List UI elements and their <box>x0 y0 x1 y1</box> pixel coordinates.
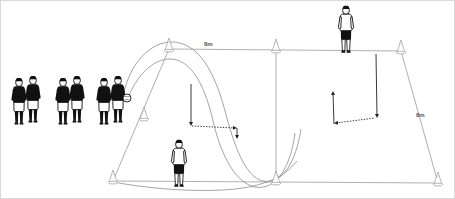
movement-arrows <box>191 54 377 137</box>
queue-player-2a <box>55 78 70 125</box>
cone-bottom-right-icon <box>433 172 442 186</box>
cone-bottom-left-icon <box>108 170 117 184</box>
cone-top-left-icon <box>164 38 173 52</box>
queue-player-1a <box>11 78 26 125</box>
cone-top-right-icon <box>396 40 405 54</box>
arrow-solid-right-up <box>333 93 334 124</box>
worker-players <box>171 6 353 187</box>
diagram-canvas: 8m 8m <box>0 0 455 199</box>
grid-line-top <box>169 49 401 51</box>
cone-group <box>108 38 442 186</box>
cone-inner-left-icon <box>139 107 148 121</box>
queue-players <box>11 76 131 125</box>
queue-player-2b <box>69 76 84 123</box>
label-top-width: 8m <box>204 41 213 47</box>
cone-top-mid-icon <box>271 39 280 53</box>
arrow-dotted-right <box>336 118 375 123</box>
queue-player-3a <box>96 78 111 125</box>
ball-arc-inner <box>127 59 295 187</box>
arrow-solid-right-down <box>376 54 377 116</box>
arrow-dotted-left <box>192 126 235 128</box>
ball-arc-outer <box>123 42 301 181</box>
player-server-back <box>338 6 353 53</box>
pitch-grid <box>113 49 438 183</box>
player-server-front <box>171 140 186 187</box>
queue-player-1b <box>25 76 40 123</box>
training-drill-diagram <box>1 1 455 199</box>
ball-icon <box>123 94 131 102</box>
ball-arc-return <box>113 161 297 190</box>
label-right-depth: 8m <box>416 112 425 118</box>
